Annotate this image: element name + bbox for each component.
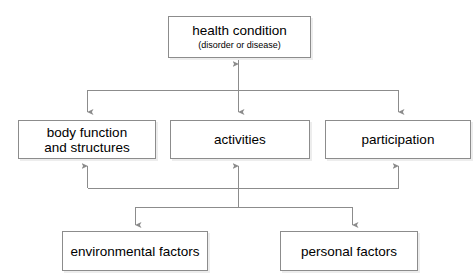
node-personal-factors-title: personal factors xyxy=(301,244,397,259)
node-activities-title: activities xyxy=(214,132,266,147)
icf-diagram: health condition (disorder or disease) b… xyxy=(0,0,476,279)
node-environmental-factors-title: environmental factors xyxy=(70,244,199,259)
node-participation[interactable]: participation xyxy=(325,120,471,159)
node-health-condition-title: health condition xyxy=(192,23,287,38)
node-body-function-title: body function and structures xyxy=(44,125,130,155)
node-activities[interactable]: activities xyxy=(170,120,310,159)
node-body-function-and-structures[interactable]: body function and structures xyxy=(18,120,156,159)
node-participation-title: participation xyxy=(362,132,435,147)
node-personal-factors[interactable]: personal factors xyxy=(280,231,418,271)
node-health-condition-subtitle: (disorder or disease) xyxy=(198,39,281,51)
node-environmental-factors[interactable]: environmental factors xyxy=(62,231,208,271)
node-health-condition[interactable]: health condition (disorder or disease) xyxy=(168,16,311,58)
